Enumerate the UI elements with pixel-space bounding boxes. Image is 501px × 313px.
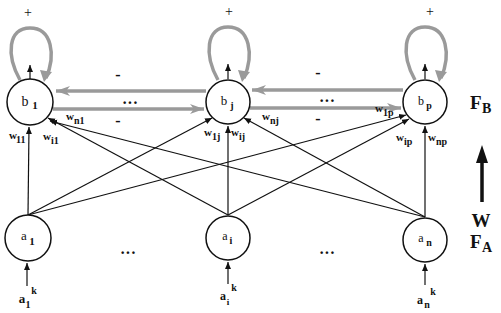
svg-text:1p: 1p — [383, 107, 394, 118]
weight-label-wip: w ip — [396, 131, 413, 147]
svg-text:i: i — [227, 297, 230, 307]
svg-text:w: w — [66, 110, 74, 122]
svg-text:n: n — [424, 299, 430, 310]
input-ellipsis: ··· — [120, 244, 136, 261]
weight-label-wi1: w i1 — [43, 130, 59, 146]
weight-label-wn1: w n1 — [66, 110, 85, 126]
weight-label-w1j: w 1j — [204, 126, 220, 142]
svg-text:a: a — [220, 289, 226, 303]
competitive-network-diagram: + + + - - - - ··· ··· b — [0, 0, 501, 313]
svg-text:np: np — [436, 136, 448, 147]
node-an: a n — [403, 218, 447, 262]
svg-text:i: i — [230, 235, 233, 246]
input-ellipsis: ··· — [319, 244, 335, 261]
svg-text:1j: 1j — [212, 131, 220, 142]
edge-a1-b1 — [28, 127, 29, 215]
node-bj: b j — [206, 80, 250, 124]
svg-text:b: b — [221, 93, 228, 108]
svg-text:w: w — [396, 131, 404, 143]
weight-label-wij: w ij — [231, 126, 245, 142]
svg-text:F: F — [470, 231, 482, 252]
svg-text:a: a — [418, 231, 424, 245]
svg-text:a: a — [417, 293, 423, 307]
svg-text:k: k — [430, 286, 436, 297]
node-b1: b 1 — [7, 79, 53, 125]
svg-text:b: b — [22, 94, 29, 109]
lateral-sign: - — [315, 110, 320, 127]
weight-label-w1p: w 1p — [375, 102, 394, 118]
svg-text:w: w — [375, 102, 383, 114]
svg-text:a: a — [222, 229, 228, 243]
svg-text:n1: n1 — [74, 115, 85, 126]
weights-label: W — [472, 210, 491, 231]
svg-text:11: 11 — [16, 134, 25, 145]
node-bp: b p — [403, 80, 447, 124]
svg-text:a: a — [21, 228, 27, 243]
output-ellipsis: ··· — [122, 94, 138, 111]
svg-text:k: k — [231, 282, 237, 293]
svg-text:B: B — [482, 101, 491, 116]
svg-text:w: w — [204, 126, 212, 138]
loop-sign-bp: + — [426, 4, 434, 19]
svg-text:j: j — [229, 100, 233, 111]
edge-ai-bp — [228, 119, 409, 215]
svg-text:w: w — [262, 110, 270, 122]
loop-sign-bj: + — [225, 4, 233, 19]
edge-a1-bj — [28, 118, 212, 215]
svg-text:p: p — [426, 100, 432, 111]
input-label-a1k: a 1 k — [19, 285, 37, 310]
svg-text:b: b — [418, 94, 424, 108]
loop-arrowhead-icon — [435, 70, 447, 82]
weight-label-wnp: w np — [428, 131, 448, 147]
input-label-aik: a i k — [220, 282, 237, 307]
lateral-sign: - — [315, 64, 320, 81]
svg-text:n: n — [426, 237, 432, 248]
layer-label-FA: F A — [470, 231, 493, 255]
loop-sign-b1: + — [24, 5, 32, 20]
svg-text:w: w — [428, 131, 436, 143]
lateral-sign: - — [115, 112, 120, 129]
node-ai: a i — [206, 216, 250, 260]
up-arrow-icon — [476, 145, 488, 163]
edge-ai-b1 — [48, 118, 228, 215]
svg-text:1: 1 — [26, 299, 31, 310]
svg-text:w: w — [43, 130, 51, 142]
svg-text:1: 1 — [32, 99, 38, 111]
svg-text:i1: i1 — [51, 135, 59, 146]
input-label-ank: a n k — [417, 286, 436, 310]
node-a1: a 1 — [5, 215, 51, 261]
svg-text:1: 1 — [29, 235, 35, 247]
weight-label-w11: w 11 — [9, 129, 25, 145]
feedforward-weights — [28, 115, 425, 217]
self-loop-bj — [209, 27, 250, 82]
svg-text:k: k — [31, 285, 37, 296]
svg-text:F: F — [470, 92, 482, 113]
svg-text:ip: ip — [404, 136, 413, 147]
layer-label-FB: F B — [470, 92, 491, 116]
loop-arrowhead-icon — [238, 70, 250, 82]
lateral-sign: - — [115, 66, 120, 83]
self-loop-b1 — [11, 28, 52, 82]
self-loop-bp — [406, 27, 447, 82]
weight-label-wnj: w nj — [262, 110, 279, 126]
svg-text:w: w — [231, 126, 239, 138]
output-ellipsis: ··· — [319, 92, 335, 109]
weight-direction-arrow — [476, 145, 488, 202]
loop-arrowhead-icon — [40, 70, 52, 82]
svg-text:ij: ij — [239, 131, 245, 142]
svg-text:nj: nj — [270, 115, 279, 126]
svg-text:A: A — [482, 240, 493, 255]
